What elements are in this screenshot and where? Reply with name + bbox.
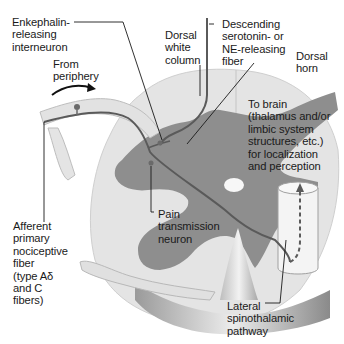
label-lateral-spinothalamic-pathway: Lateral spinothalamic pathway	[227, 300, 294, 337]
label-enkephalin-interneuron: Enkephalin- releasing interneuron	[12, 16, 70, 53]
label-from-periphery: From periphery	[53, 58, 99, 83]
ganglion-cell-body	[74, 104, 80, 110]
label-descending-fiber: Descending serotonin- or NE-releasing fi…	[222, 18, 285, 68]
label-to-brain: To brain (thalamus and/or limbic system …	[248, 98, 330, 172]
label-afferent-fiber: Afferent primary nociceptive fiber (type…	[13, 220, 68, 307]
label-dorsal-horn: Dorsal horn	[296, 50, 328, 75]
spinal-cord-diagram: Enkephalin- releasing interneuron From p…	[0, 0, 344, 344]
from-periphery-arrow	[52, 86, 92, 95]
arrow-right-icon	[87, 83, 96, 92]
dorsal-root-branch	[48, 128, 75, 180]
label-dorsal-white-column: Dorsal white column	[165, 29, 200, 66]
central-canal	[224, 178, 244, 192]
label-pain-transmission-neuron: Pain transmission neuron	[158, 208, 220, 245]
